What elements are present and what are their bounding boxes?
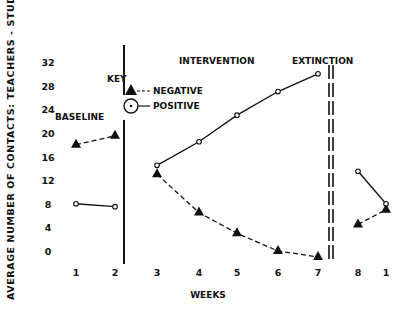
positive-line [76, 204, 115, 207]
phase-divider-intervention-extinction [329, 65, 333, 262]
x-tick-label: 5 [234, 267, 241, 278]
y-tick-label: 24 [41, 104, 55, 115]
y-axis-ticks: 048121620242832 [41, 57, 55, 257]
x-tick-label: 8 [355, 267, 362, 278]
negative-triangle-marker [152, 168, 162, 177]
x-tick-label: 3 [154, 267, 161, 278]
x-tick-label: 2 [112, 267, 119, 278]
positive-circle-marker [155, 163, 160, 168]
legend: KEY NEGATIVE POSITIVE [107, 74, 203, 113]
negative-triangle-marker [273, 245, 283, 254]
negative-triangle-marker [110, 130, 120, 139]
legend-negative-label: NEGATIVE [153, 86, 203, 96]
x-tick-label: 6 [275, 267, 282, 278]
negative-line [157, 174, 318, 257]
positive-circle-marker [113, 204, 118, 209]
positive-circle-marker [74, 201, 79, 206]
phase-label-extinction: EXTINCTION [292, 56, 353, 66]
y-tick-label: 4 [45, 222, 52, 233]
legend-positive-label: POSITIVE [153, 101, 200, 111]
y-tick-label: 8 [45, 199, 52, 210]
legend-title: KEY [107, 74, 127, 84]
negative-triangle-marker [313, 251, 323, 260]
y-tick-label: 20 [41, 128, 55, 139]
positive-circle-marker [384, 201, 389, 206]
positive-circle-marker [235, 113, 240, 118]
chart: 048121620242832 123456781 AVERAGE NUMBER… [0, 0, 410, 318]
x-tick-label: 7 [315, 267, 322, 278]
positive-circle-marker [197, 139, 202, 144]
y-tick-label: 0 [45, 246, 52, 257]
negative-triangle-marker [71, 139, 81, 148]
y-axis-label: AVERAGE NUMBER OF CONTACTS: TEACHERS - S… [5, 0, 16, 300]
positive-circle-marker [316, 72, 321, 77]
x-tick-label: 4 [196, 267, 203, 278]
positive-circle-marker [356, 169, 361, 174]
phase-label-intervention: INTERVENTION [179, 56, 254, 66]
negative-triangle-marker [194, 207, 204, 216]
y-tick-label: 32 [41, 57, 54, 68]
legend-negative-triangle-icon [125, 84, 137, 95]
phase-label-baseline: BASELINE [55, 112, 104, 122]
positive-circle-marker [276, 89, 281, 94]
y-tick-label: 28 [41, 81, 55, 92]
x-tick-label: 1 [73, 267, 80, 278]
x-tick-label: 1 [383, 267, 390, 278]
negative-line [76, 136, 115, 145]
x-axis-label: WEEKS [190, 290, 226, 300]
series-layer [71, 72, 391, 260]
y-tick-label: 12 [41, 175, 54, 186]
x-axis-ticks: 123456781 [73, 267, 390, 278]
positive-line [358, 171, 386, 203]
y-tick-label: 16 [41, 152, 55, 163]
